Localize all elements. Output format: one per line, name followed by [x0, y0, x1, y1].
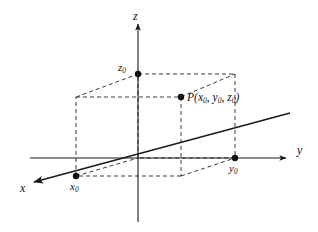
point-p-label: P(x0, y0, z0) — [187, 92, 239, 104]
point-p-name: P — [187, 91, 194, 103]
coordinate-diagram-figure: x y z x0 y0 z0 P(x0, y0, z0) — [0, 0, 318, 232]
y0-label-sub: 0 — [234, 168, 238, 176]
x-axis-label: x — [20, 182, 25, 194]
point-dot-p — [178, 94, 184, 100]
box-depth-edge-bottom-left — [76, 158, 138, 176]
coordinate-axes — [30, 24, 290, 222]
dashed-projection-box — [76, 74, 235, 176]
z0-label: z0 — [118, 62, 126, 75]
point-dot-y0 — [232, 155, 238, 161]
plotted-points — [73, 71, 238, 179]
point-dot-z0 — [135, 71, 141, 77]
x-axis — [34, 113, 290, 182]
box-depth-edge-top-left — [76, 74, 138, 97]
diagram-canvas — [0, 0, 318, 232]
box-depth-edge-bottom-right — [181, 158, 235, 176]
z0-label-sub: 0 — [122, 67, 126, 75]
y-axis-label: y — [297, 144, 302, 156]
point-dot-x0 — [73, 173, 79, 179]
z-axis-label: z — [133, 10, 138, 22]
point-p-close-paren: ) — [235, 91, 239, 103]
x0-label: x0 — [70, 181, 79, 194]
y0-label: y0 — [229, 163, 238, 176]
x0-label-sub: 0 — [75, 186, 79, 194]
